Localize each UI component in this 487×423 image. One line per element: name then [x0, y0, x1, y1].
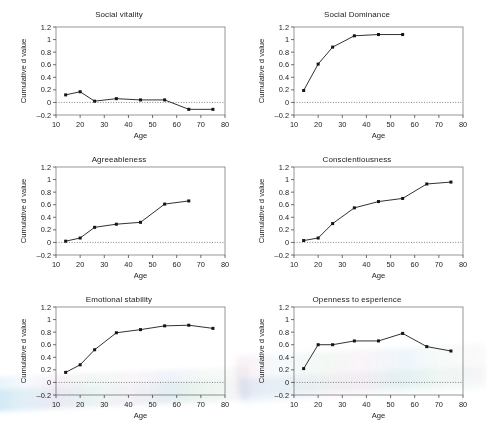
svg-text:20: 20 [314, 120, 322, 129]
svg-text:0.4: 0.4 [41, 73, 51, 82]
svg-text:70: 70 [435, 400, 443, 409]
plot-area-3: 1.210.80.60.40.20–0.21020304050607080Age… [238, 145, 476, 285]
svg-text:80: 80 [221, 400, 229, 409]
svg-text:–0.2: –0.2 [37, 251, 51, 260]
svg-text:Cumulative d value: Cumulative d value [19, 319, 28, 384]
plot-area-4: 1.210.80.60.40.20–0.21020304050607080Age… [0, 285, 238, 423]
svg-text:Cumulative d value: Cumulative d value [19, 39, 28, 104]
plot-area-1: 1.210.80.60.40.20–0.21020304050607080Age… [238, 0, 476, 145]
svg-text:–0.2: –0.2 [37, 391, 51, 400]
svg-text:70: 70 [197, 260, 205, 269]
svg-text:70: 70 [435, 120, 443, 129]
svg-text:1: 1 [285, 315, 289, 324]
panel-social-vitality: Social vitality 1.210.80.60.40.20–0.2102… [0, 0, 238, 145]
svg-text:40: 40 [362, 120, 370, 129]
svg-text:10: 10 [290, 120, 298, 129]
svg-text:50: 50 [386, 260, 394, 269]
svg-text:Age: Age [372, 131, 386, 140]
svg-text:20: 20 [314, 260, 322, 269]
svg-text:0.8: 0.8 [41, 328, 51, 337]
svg-text:0.4: 0.4 [41, 213, 51, 222]
svg-text:60: 60 [411, 400, 419, 409]
svg-text:Age: Age [134, 271, 148, 280]
svg-text:0: 0 [285, 238, 289, 247]
svg-text:40: 40 [124, 400, 132, 409]
svg-text:Cumulative d value: Cumulative d value [257, 319, 266, 384]
svg-text:40: 40 [362, 400, 370, 409]
svg-text:50: 50 [148, 400, 156, 409]
svg-text:50: 50 [386, 120, 394, 129]
svg-text:0.8: 0.8 [41, 188, 51, 197]
svg-text:1: 1 [285, 35, 289, 44]
svg-text:0.8: 0.8 [279, 48, 289, 57]
svg-text:50: 50 [386, 400, 394, 409]
svg-text:Age: Age [372, 411, 386, 420]
svg-text:10: 10 [290, 260, 298, 269]
svg-text:10: 10 [52, 260, 60, 269]
svg-text:1.2: 1.2 [279, 163, 289, 172]
svg-text:1: 1 [47, 175, 51, 184]
plot-area-2: 1.210.80.60.40.20–0.21020304050607080Age… [0, 145, 238, 285]
svg-text:0.2: 0.2 [279, 365, 289, 374]
svg-text:40: 40 [124, 120, 132, 129]
svg-text:30: 30 [338, 260, 346, 269]
svg-text:0.6: 0.6 [41, 200, 51, 209]
svg-text:80: 80 [459, 260, 467, 269]
svg-text:70: 70 [197, 400, 205, 409]
panel-openness-to-experience: Openness to esperience 1.210.80.60.40.20… [238, 285, 476, 423]
svg-text:10: 10 [52, 400, 60, 409]
svg-text:60: 60 [173, 400, 181, 409]
svg-text:20: 20 [76, 120, 84, 129]
svg-text:0.8: 0.8 [279, 188, 289, 197]
svg-text:Age: Age [372, 271, 386, 280]
svg-text:0.2: 0.2 [279, 225, 289, 234]
panel-emotional-stability: Emotional stability 1.210.80.60.40.20–0.… [0, 285, 238, 423]
svg-text:30: 30 [100, 260, 108, 269]
plot-area-0: 1.210.80.60.40.20–0.21020304050607080Age… [0, 0, 238, 145]
svg-text:1: 1 [47, 315, 51, 324]
svg-text:30: 30 [338, 400, 346, 409]
svg-text:30: 30 [100, 120, 108, 129]
svg-text:20: 20 [314, 400, 322, 409]
svg-text:0.6: 0.6 [41, 340, 51, 349]
svg-text:0.6: 0.6 [279, 200, 289, 209]
svg-text:0.2: 0.2 [279, 85, 289, 94]
svg-text:0.2: 0.2 [41, 85, 51, 94]
svg-text:60: 60 [173, 260, 181, 269]
svg-text:0: 0 [47, 238, 51, 247]
svg-text:50: 50 [148, 120, 156, 129]
svg-text:1: 1 [285, 175, 289, 184]
svg-text:–0.2: –0.2 [275, 391, 289, 400]
svg-text:30: 30 [100, 400, 108, 409]
svg-text:0.6: 0.6 [279, 60, 289, 69]
svg-text:10: 10 [52, 120, 60, 129]
svg-text:1.2: 1.2 [279, 23, 289, 32]
svg-text:70: 70 [197, 120, 205, 129]
svg-text:–0.2: –0.2 [275, 251, 289, 260]
svg-text:80: 80 [459, 120, 467, 129]
svg-text:40: 40 [362, 260, 370, 269]
svg-text:0.4: 0.4 [279, 213, 289, 222]
svg-text:0.4: 0.4 [41, 353, 51, 362]
svg-text:60: 60 [411, 120, 419, 129]
svg-text:1.2: 1.2 [279, 303, 289, 312]
svg-text:0: 0 [285, 378, 289, 387]
svg-text:0.2: 0.2 [41, 225, 51, 234]
svg-text:60: 60 [173, 120, 181, 129]
svg-text:80: 80 [221, 120, 229, 129]
plot-area-5: 1.210.80.60.40.20–0.21020304050607080Age… [238, 285, 476, 423]
svg-text:–0.2: –0.2 [37, 111, 51, 120]
svg-text:Age: Age [134, 131, 148, 140]
svg-text:70: 70 [435, 260, 443, 269]
svg-text:Cumulative d value: Cumulative d value [257, 39, 266, 104]
svg-text:Cumulative d value: Cumulative d value [19, 179, 28, 244]
svg-text:1.2: 1.2 [41, 23, 51, 32]
svg-text:60: 60 [411, 260, 419, 269]
panel-conscientiousness: Conscientiousness 1.210.80.60.40.20–0.21… [238, 145, 476, 285]
svg-text:1: 1 [47, 35, 51, 44]
svg-text:30: 30 [338, 120, 346, 129]
svg-text:20: 20 [76, 400, 84, 409]
svg-text:0: 0 [285, 98, 289, 107]
svg-text:0.8: 0.8 [279, 328, 289, 337]
